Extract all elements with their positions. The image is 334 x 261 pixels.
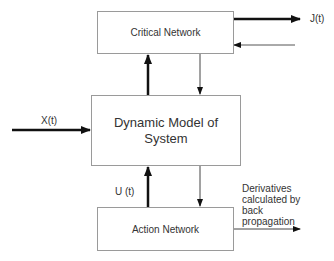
diagram-canvas: Critical Network Dynamic Model of System… [0, 0, 334, 261]
action-network-box: Action Network [97, 207, 234, 251]
dynamic-model-box: Dynamic Model of System [91, 95, 241, 166]
critical-network-box: Critical Network [97, 11, 234, 54]
derivatives-label: Derivatives calculated by back propagati… [242, 183, 312, 227]
jt-label: J(t) [310, 13, 324, 24]
ut-label: U (t) [115, 186, 134, 197]
xt-label: X(t) [41, 115, 57, 126]
critical-network-label: Critical Network [130, 27, 200, 38]
action-network-label: Action Network [132, 224, 199, 235]
dynamic-model-label: Dynamic Model of System [106, 115, 226, 147]
